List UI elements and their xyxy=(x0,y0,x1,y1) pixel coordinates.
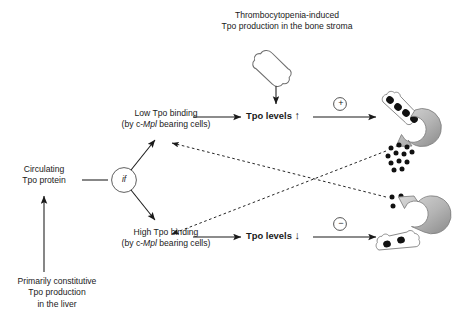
dashed-arrow-platelets-high-to-high-binding xyxy=(172,151,386,234)
if-node-label: if xyxy=(112,168,136,192)
low-binding-suffix: bearing cells) xyxy=(157,119,211,129)
arrow-if-to-low-binding xyxy=(131,140,155,170)
tpo-levels-down-label: Tpo levels ↓ xyxy=(246,230,300,241)
bone-with-megakaryocytes-icon xyxy=(376,231,420,250)
up-arrow-icon: ↑ xyxy=(294,109,300,121)
minus-sign-label: − xyxy=(336,218,346,229)
high-binding-gene: Mpl xyxy=(143,238,157,248)
tpo-levels-up-text: Tpo levels xyxy=(246,110,292,121)
bone-icon xyxy=(253,51,291,87)
liver-line-3: in the liver xyxy=(37,299,76,309)
page-title: Thrombocytopenia-induced Tpo production … xyxy=(192,10,382,33)
platelet-cluster-icon xyxy=(386,143,415,173)
high-binding-line-1: High Tpo binding xyxy=(134,227,199,237)
diagram-vector-layer xyxy=(0,0,453,318)
title-line-1: Thrombocytopenia-induced xyxy=(235,10,339,20)
high-binding-prefix: (by c- xyxy=(122,238,143,248)
arrow-if-to-high-binding xyxy=(131,190,155,220)
diagram-canvas: Thrombocytopenia-induced Tpo production … xyxy=(0,0,453,318)
bone-with-megakaryocytes-icon xyxy=(382,91,419,124)
high-binding-line-2: (by c-Mpl bearing cells) xyxy=(122,238,211,248)
circulating-line-1: Circulating xyxy=(24,164,65,174)
low-binding-line-2: (by c-Mpl bearing cells) xyxy=(122,119,211,129)
low-binding-gene: Mpl xyxy=(143,119,157,129)
high-tpo-binding-label: High Tpo binding (by c-Mpl bearing cells… xyxy=(104,227,228,250)
liver-line-1: Primarily constitutive xyxy=(18,276,97,286)
liver-production-label: Primarily constitutive Tpo production in… xyxy=(2,276,112,310)
high-binding-suffix: bearing cells) xyxy=(157,238,211,248)
circular-arrow-icon xyxy=(399,196,452,234)
plus-sign-label: + xyxy=(336,98,346,109)
title-line-2: Tpo production in the bone stroma xyxy=(222,21,353,31)
dashed-arrow-platelets-low-to-low-binding xyxy=(172,143,386,197)
low-binding-prefix: (by c- xyxy=(122,119,143,129)
circulating-tpo-label: Circulating Tpo protein xyxy=(8,164,80,187)
tpo-levels-up-label: Tpo levels ↑ xyxy=(246,110,300,121)
liver-line-2: Tpo production xyxy=(28,287,85,297)
tpo-levels-down-text: Tpo levels xyxy=(246,230,292,241)
circulating-line-2: Tpo protein xyxy=(22,175,65,185)
low-binding-line-1: Low Tpo binding xyxy=(135,108,198,118)
down-arrow-icon: ↓ xyxy=(294,229,300,241)
low-tpo-binding-label: Low Tpo binding (by c-Mpl bearing cells) xyxy=(104,108,228,131)
